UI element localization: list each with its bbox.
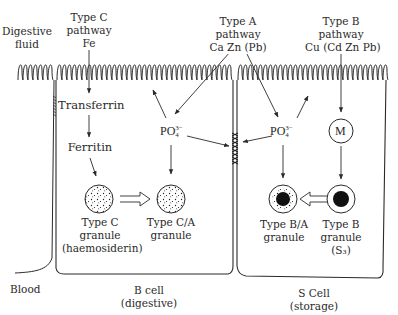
label-line: Type B	[305, 15, 377, 28]
label-line: (S₃)	[316, 244, 366, 257]
hollow-arrow-c-to-ca	[120, 192, 150, 206]
label-line: Ca Zn (Pb)	[205, 41, 271, 54]
label-line: (storage)	[284, 300, 344, 313]
arrow-po4-left-to-junction	[187, 136, 229, 146]
label-s-cell: S Cell (storage)	[284, 287, 344, 313]
arrow-typea-to-po4-left	[175, 52, 230, 114]
type-b-granule	[327, 185, 355, 213]
chem-base: PO	[270, 124, 285, 138]
label-line: S Cell	[284, 287, 344, 300]
label-blood: Blood	[10, 283, 50, 296]
type-ba-granule	[269, 185, 297, 213]
label-phosphate-right: PO3−4	[270, 124, 293, 139]
label-ferritin: Ferritin	[67, 141, 113, 154]
chem-subscript: 4	[285, 132, 292, 139]
label-line: pathway	[305, 28, 377, 41]
label-type-c-pathway: Type C pathway Fe	[64, 11, 114, 50]
label-phosphate-left: PO3−4	[160, 124, 183, 139]
label-type-a-pathway: Type A pathway Ca Zn (Pb)	[205, 15, 271, 54]
pathway-diagram: Digestive fluid Type C pathway Fe Type A…	[0, 0, 398, 315]
label-line: B cell	[118, 284, 180, 297]
label-line: Type C	[62, 216, 138, 229]
label-type-b-pathway: Type B pathway Cu (Cd Zn Pb)	[305, 15, 377, 54]
label-line: granule	[256, 231, 312, 244]
label-line: granule	[316, 231, 366, 244]
label-line: Fe	[64, 37, 114, 50]
blood-boundary	[15, 80, 54, 273]
arrow-po4-right-to-junction	[243, 136, 272, 142]
arrow-po4-left-to-villi	[153, 90, 166, 118]
label-type-b-granule: Type B granule (S₃)	[316, 218, 366, 257]
label-line: granule	[62, 229, 138, 242]
label-type-ca-granule: Type C/A granule	[143, 216, 199, 242]
label-line: (haemosiderin)	[62, 242, 138, 255]
label-line: Type C	[64, 11, 114, 24]
label-line: Type B/A	[256, 218, 312, 231]
label-line: Digestive	[2, 25, 52, 38]
label-metallothionein: M	[335, 124, 346, 139]
label-line: Type C/A	[143, 216, 199, 229]
chem-subscript: 4	[175, 132, 182, 139]
arrow-typea-to-po4-right	[246, 52, 278, 117]
label-transferrin: Transferrin	[58, 99, 122, 112]
label-line: pathway	[64, 24, 114, 37]
label-line: granule	[143, 229, 199, 242]
type-ca-granule	[157, 185, 185, 213]
label-line: Cu (Cd Zn Pb)	[305, 41, 377, 54]
chem-base: PO	[160, 124, 175, 138]
arrow-ferritin-to-granule	[90, 158, 96, 176]
type-c-granule	[85, 185, 113, 213]
label-line: fluid	[2, 38, 52, 51]
label-type-c-granule: Type C granule (haemosiderin)	[62, 216, 138, 255]
hollow-arrow-b-to-ba	[300, 192, 328, 206]
label-b-cell: B cell (digestive)	[118, 284, 180, 310]
arrow-po4-right-to-villi	[297, 96, 308, 118]
label-type-ba-granule: Type B/A granule	[256, 218, 312, 244]
label-line: Type A	[205, 15, 271, 28]
label-digestive-fluid: Digestive fluid	[2, 25, 52, 51]
label-line: pathway	[205, 28, 271, 41]
label-line: Type B	[316, 218, 366, 231]
microvilli-border	[18, 65, 388, 80]
label-line: (digestive)	[118, 297, 180, 310]
